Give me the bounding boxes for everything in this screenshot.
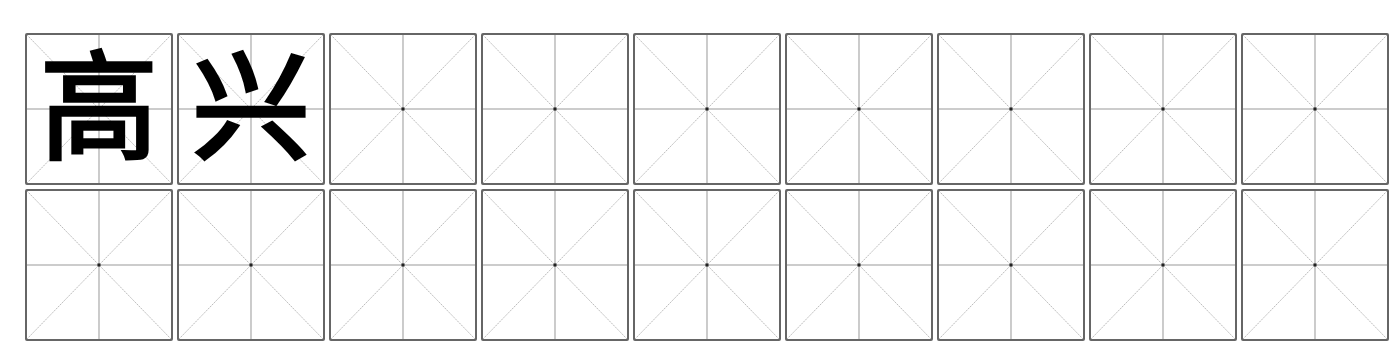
- practice-character: [331, 35, 475, 183]
- grid-cell[interactable]: [25, 189, 173, 341]
- grid-cell[interactable]: [785, 189, 933, 341]
- grid-cell[interactable]: [481, 33, 629, 185]
- grid-cell[interactable]: [329, 33, 477, 185]
- grid-cell[interactable]: 兴: [177, 33, 325, 185]
- grid-cell[interactable]: 高: [25, 33, 173, 185]
- practice-character: [787, 35, 931, 183]
- practice-character: [331, 191, 475, 339]
- grid-cell[interactable]: [937, 33, 1085, 185]
- grid-cell[interactable]: [1089, 33, 1237, 185]
- grid-cell[interactable]: [177, 189, 325, 341]
- grid-cell[interactable]: [1241, 33, 1389, 185]
- practice-character: [179, 191, 323, 339]
- grid-cell[interactable]: [1241, 189, 1389, 341]
- practice-character: [1091, 191, 1235, 339]
- grid-cell[interactable]: [1089, 189, 1237, 341]
- practice-character: [1243, 191, 1387, 339]
- practice-character: [787, 191, 931, 339]
- practice-character: [939, 35, 1083, 183]
- practice-character: [483, 35, 627, 183]
- grid-cell[interactable]: [937, 189, 1085, 341]
- practice-character: [1243, 35, 1387, 183]
- writing-grid: 高兴: [25, 33, 1389, 341]
- practice-character: 高: [27, 35, 171, 183]
- grid-cell[interactable]: [329, 189, 477, 341]
- grid-cell[interactable]: [633, 189, 781, 341]
- grid-cell[interactable]: [633, 33, 781, 185]
- practice-character: [483, 191, 627, 339]
- practice-character: [27, 191, 171, 339]
- practice-character: 兴: [179, 35, 323, 183]
- practice-character: [635, 35, 779, 183]
- grid-cell[interactable]: [481, 189, 629, 341]
- practice-character: [635, 191, 779, 339]
- practice-character: [939, 191, 1083, 339]
- practice-character: [1091, 35, 1235, 183]
- grid-cell[interactable]: [785, 33, 933, 185]
